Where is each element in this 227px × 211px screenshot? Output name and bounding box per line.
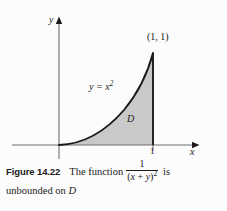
caption-region-letter: D xyxy=(66,185,76,196)
curve-label-equals: = xyxy=(93,81,105,92)
caption-line-2: unbounded on D xyxy=(6,184,224,197)
figure-container: y x 1 (1, 1) y = x2 D Figure 14.22 The f… xyxy=(0,0,227,211)
curve-equation-label: y = x2 xyxy=(89,81,113,92)
point-label-1-1: (1, 1) xyxy=(147,32,169,42)
caption-figure-number: Figure 14.22 xyxy=(6,166,60,178)
caption-line-two-text: unbounded on xyxy=(6,185,66,196)
caption-text-before-fraction: The function xyxy=(69,165,123,178)
x-axis-label: x xyxy=(190,147,194,157)
plot-svg xyxy=(0,0,227,160)
fraction-numerator: 1 xyxy=(137,159,148,170)
y-axis-label: y xyxy=(49,15,53,25)
caption-line-1: Figure 14.22 The function 1 (x + y)2 is xyxy=(6,160,224,183)
figure-caption: Figure 14.22 The function 1 (x + y)2 is … xyxy=(6,160,224,198)
curve-label-exponent: 2 xyxy=(110,80,114,88)
y-axis-arrow-icon xyxy=(56,17,62,25)
fraction-denominator: (x + y)2 xyxy=(126,171,158,183)
x-tick-label-1: 1 xyxy=(150,147,155,156)
plot-area: y x 1 (1, 1) y = x2 D xyxy=(0,0,227,160)
caption-text-after-fraction: is xyxy=(163,165,170,178)
caption-fraction: 1 (x + y)2 xyxy=(126,159,158,182)
denominator-operator: + xyxy=(135,171,146,182)
region-label-d: D xyxy=(127,114,134,124)
denominator-exponent: 2 xyxy=(153,170,157,178)
caption-region-letter-text: D xyxy=(68,185,76,196)
shaded-region-d xyxy=(59,53,153,145)
